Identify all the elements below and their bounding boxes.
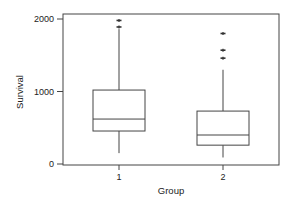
boxplot-chart: 010002000 12 Survival Group bbox=[0, 0, 296, 205]
box-group-1 bbox=[93, 19, 145, 153]
x-tick-label: 1 bbox=[116, 172, 121, 182]
x-axis-title: Group bbox=[158, 185, 184, 196]
iqr-box bbox=[197, 111, 249, 145]
x-tick-label: 2 bbox=[220, 172, 225, 182]
iqr-box bbox=[93, 90, 145, 131]
y-axis-title: Survival bbox=[14, 75, 25, 109]
y-tick-label: 1000 bbox=[34, 87, 54, 97]
boxes bbox=[93, 19, 249, 158]
x-axis: 12 bbox=[116, 165, 225, 182]
y-axis: 010002000 bbox=[34, 14, 63, 169]
y-tick-label: 2000 bbox=[34, 14, 54, 24]
y-tick-label: 0 bbox=[49, 159, 54, 169]
box-group-2 bbox=[197, 32, 249, 157]
